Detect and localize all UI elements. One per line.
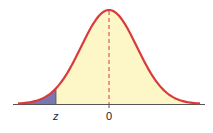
normal-curve-diagram: z 0	[0, 0, 213, 133]
zero-label: 0	[106, 110, 112, 122]
z-label: z	[52, 110, 59, 122]
